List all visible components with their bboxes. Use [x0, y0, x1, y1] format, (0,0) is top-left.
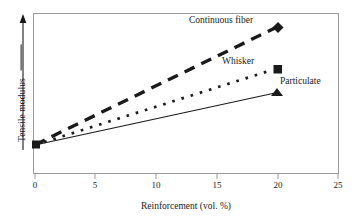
x-tick-label-5: 5: [80, 180, 110, 190]
chart-figure: Tensile modulus Reinforcement (vol. %) 0…: [0, 0, 359, 224]
series-continuous-fiber: [35, 22, 284, 145]
x-tick-label-15: 15: [202, 180, 232, 190]
y-axis-label: Tensile modulus: [17, 18, 28, 168]
marker-triangle: [271, 88, 283, 96]
x-tick-label-25: 25: [323, 180, 353, 190]
series-particulate: [35, 88, 283, 145]
series-annotation-whisker: Whisker: [222, 56, 254, 66]
series-annotation-particulate: Particulate: [280, 76, 321, 86]
series-annotation-continuous-fiber: Continuous fiber: [189, 15, 253, 25]
x-axis-ticks: [35, 174, 338, 179]
marker-square: [274, 65, 283, 74]
series-whisker: [35, 65, 282, 145]
y-axis-label-arrow-rule: [21, 45, 22, 71]
marker-diamond: [273, 22, 284, 33]
x-axis-label: Reinforcement (vol. %): [33, 201, 339, 211]
y-axis-label-text: Tensile modulus: [17, 78, 27, 142]
x-tick-label-10: 10: [141, 180, 171, 190]
x-tick-label-20: 20: [263, 180, 293, 190]
origin-marker: [32, 141, 40, 149]
chart-canvas: [0, 0, 359, 224]
x-tick-label-0: 0: [20, 180, 50, 190]
